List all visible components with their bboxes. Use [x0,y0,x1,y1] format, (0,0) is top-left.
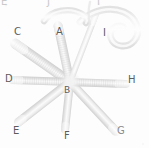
annotation-label-b: B [64,85,70,95]
micrograph-image [0,0,149,148]
annotation-label-fragment-top-right: I [97,0,100,7]
annotation-label-i: I [103,28,106,38]
annotation-label-a: A [56,27,63,37]
annotation-label-d: D [5,74,13,84]
filament-stub-top [89,2,91,24]
annotation-label-g: G [117,126,125,136]
annotation-label-fragment-top-left: E [1,0,7,7]
annotation-label-c: C [14,27,21,37]
annotation-label-h: H [128,75,136,85]
annotation-label-fragment-top-center: J [47,0,50,7]
annotation-label-e: E [13,126,19,136]
micrograph-figure: C A I D H B E F G E J I [0,0,149,148]
annotation-label-f: F [64,131,70,141]
